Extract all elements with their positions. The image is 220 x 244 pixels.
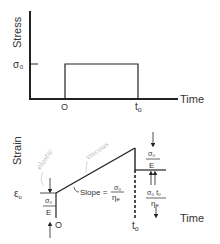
stress-x-tick-start: O bbox=[61, 102, 68, 112]
stress-step-curve bbox=[65, 64, 138, 99]
strain-y-label: Strain bbox=[11, 136, 23, 165]
diagram-canvas: Stress σ₀ Time O to Strain εo Time O to … bbox=[0, 0, 220, 244]
stress-y-label: Stress bbox=[11, 16, 23, 48]
handwritten-leader bbox=[86, 161, 87, 172]
handwritten-leader bbox=[41, 172, 44, 186]
stress-plot: Stress σ₀ Time O to bbox=[11, 11, 204, 113]
recovery-numerator: σ₀ bbox=[148, 150, 155, 157]
permanent-denominator: ηe bbox=[151, 199, 159, 208]
slope-label: Slope = bbox=[80, 188, 108, 197]
recovery-denominator: E bbox=[149, 161, 154, 170]
permanent-strain-fraction: σ₀ t₀ ηe bbox=[146, 173, 166, 216]
strain-x-tick-end: to bbox=[132, 220, 139, 232]
stress-x-tick-end: to bbox=[135, 101, 142, 113]
permanent-numerator: σ₀ t₀ bbox=[147, 189, 161, 196]
recovery-elastic-fraction: σ₀ E bbox=[146, 132, 160, 170]
stress-y-tick-label: σ₀ bbox=[13, 59, 23, 70]
elastic-jump-numerator: σ₀ bbox=[45, 197, 52, 204]
handwritten-elastic: elastic bbox=[35, 148, 55, 172]
handwritten-viscous: viscous bbox=[85, 140, 111, 162]
slope-denominator: ηe bbox=[112, 193, 120, 202]
strain-x-label: Time bbox=[180, 212, 204, 224]
strain-x-tick-start: O bbox=[55, 220, 62, 230]
elastic-jump-fraction: σ₀ E bbox=[43, 178, 56, 217]
stress-x-label: Time bbox=[180, 93, 204, 105]
strain-y-tick-label: εo bbox=[14, 188, 22, 200]
elastic-jump-denominator: E bbox=[46, 208, 51, 217]
slope-annotation: Slope = σ₀ ηe bbox=[74, 184, 124, 202]
slope-numerator: σ₀ bbox=[114, 184, 121, 191]
slope-leader-line bbox=[74, 187, 79, 192]
